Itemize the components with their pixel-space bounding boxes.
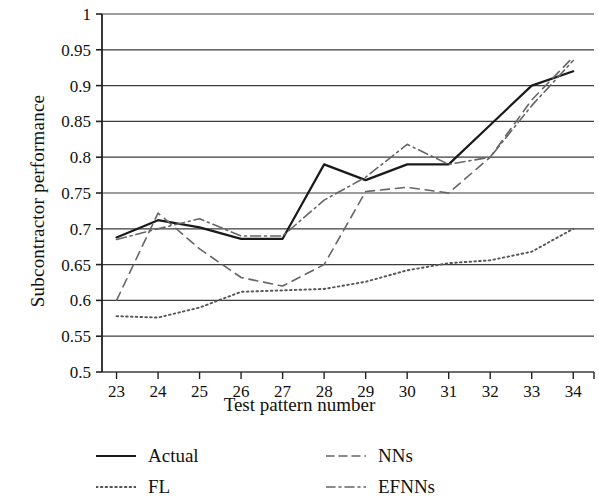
plot-area: 0.50.550.60.650.70.750.80.850.90.9512324… xyxy=(0,0,599,400)
y-tick-label: 0.5 xyxy=(70,363,91,382)
y-tick-label: 0.65 xyxy=(61,256,91,275)
legend-item-nns[interactable]: NNs xyxy=(326,445,556,467)
legend-label: Actual xyxy=(148,445,199,467)
legend-item-actual[interactable]: Actual xyxy=(96,445,326,467)
y-tick-label: 0.6 xyxy=(70,291,91,310)
legend-label: NNs xyxy=(378,445,413,467)
legend-item-fl[interactable]: FL xyxy=(96,476,326,498)
series-line-nns xyxy=(117,57,574,300)
legend-row: FLEFNNs xyxy=(96,471,556,502)
legend-item-efnns[interactable]: EFNNs xyxy=(326,476,556,498)
legend-line-sample xyxy=(96,480,136,494)
y-tick-label: 0.8 xyxy=(70,148,91,167)
y-tick-label: 1 xyxy=(83,5,92,24)
y-tick-label: 0.55 xyxy=(61,327,91,346)
series-line-efnns xyxy=(117,61,574,240)
legend-line-sample xyxy=(96,449,136,463)
y-tick-label: 0.85 xyxy=(61,112,91,131)
legend-line-sample xyxy=(326,449,366,463)
x-axis-title: Test pattern number xyxy=(0,394,599,416)
series-line-actual xyxy=(117,71,574,239)
y-tick-label: 0.95 xyxy=(61,41,91,60)
legend-label: FL xyxy=(148,476,170,498)
legend-row: ActualNNs xyxy=(96,440,556,471)
y-tick-label: 0.75 xyxy=(61,184,91,203)
chart-legend: ActualNNsFLEFNNs xyxy=(96,440,556,502)
series-line-fl xyxy=(117,229,574,318)
legend-label: EFNNs xyxy=(378,476,435,498)
y-tick-label: 0.7 xyxy=(70,220,92,239)
chart-figure: Subcontractor performance 0.50.550.60.65… xyxy=(0,0,599,504)
legend-line-sample xyxy=(326,480,366,494)
y-tick-label: 0.9 xyxy=(70,77,91,96)
